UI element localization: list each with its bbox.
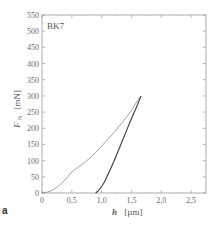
x-axis-symbol: h [112,207,117,217]
y-axis-title: F N [mN] [12,90,24,129]
y-tick-label: 450 [27,43,39,52]
x-tick-label: 1,0 [97,196,107,205]
y-tick-label: 200 [27,124,39,133]
y-tick-label: 0 [35,189,39,198]
y-axis-symbol: F [12,122,22,129]
y-tick-label: 100 [27,157,39,166]
annotation-bk7: BK7 [47,21,65,31]
series-unloading-line [96,96,141,193]
x-tick-label: 0,5 [67,196,77,205]
y-tick-label: 250 [27,108,39,117]
x-tick-label: 1,5 [126,196,136,205]
x-tick-label: 2,5 [186,196,196,205]
y-tick-label: 350 [27,76,39,85]
chart: 05010015020025030035040045050055000,51,0… [0,0,218,225]
y-tick-label: 50 [31,173,39,182]
y-axis-subscript: N [17,115,23,120]
y-tick-label: 300 [27,92,39,101]
y-tick-label: 550 [27,11,39,20]
x-tick-label: 2,0 [156,196,166,205]
panel-label: a [2,205,8,216]
y-axis-unit: [mN] [12,90,22,110]
series-loading-line [42,96,141,193]
x-axis-title: h [µm] [112,207,142,217]
x-axis-unit: [µm] [124,207,142,217]
plot-frame [42,15,206,193]
y-tick-label: 150 [27,140,39,149]
plot-area: 05010015020025030035040045050055000,51,0… [27,11,206,205]
x-tick-label: 0 [40,196,44,205]
y-tick-label: 500 [27,27,39,36]
y-tick-label: 400 [27,60,39,69]
